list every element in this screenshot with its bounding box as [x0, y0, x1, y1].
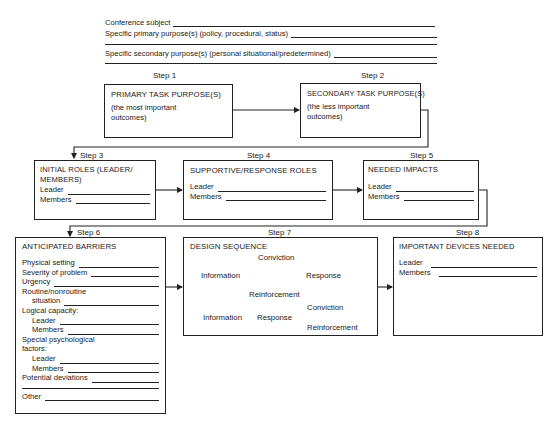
- special-psych-label: Special psychological: [22, 335, 95, 345]
- step-1-primary-task-purpose-box: PRIMARY TASK PURPOSE(S) (the most import…: [104, 84, 233, 138]
- step-1-note: (the most important outcomes): [111, 103, 206, 123]
- step-8-leader-blank[interactable]: [431, 261, 537, 268]
- step-5-label: Step 5: [410, 151, 433, 160]
- branch-information: Information: [203, 313, 242, 322]
- step-3-members-blank[interactable]: [76, 197, 150, 204]
- step-4-supportive-response-roles-box: SUPPORTIVE/RESPONSE ROLES Leader Members: [183, 160, 333, 220]
- step-8-title: IMPORTANT DEVICES NEEDED: [399, 242, 537, 251]
- step-5-members-label: Members: [368, 192, 400, 202]
- psych-leader-field: Leader: [22, 354, 159, 364]
- other-label: Other: [22, 392, 41, 402]
- psych-members-field: Members: [22, 364, 159, 374]
- step-4-members-label: Members: [190, 192, 222, 202]
- psych-members-label: Members: [32, 364, 64, 374]
- logical-capacity-label-row: Logical capacity:: [22, 306, 159, 316]
- step-8-leader-label: Leader: [399, 258, 423, 268]
- cycle-conviction: Conviction: [258, 253, 294, 262]
- potential-deviations-blank[interactable]: [92, 376, 159, 383]
- step-3-label: Step 3: [80, 151, 103, 160]
- logical-members-label: Members: [32, 325, 64, 335]
- step-5-title: NEEDED IMPACTS: [368, 165, 474, 174]
- severity-field: Severity of problem: [22, 268, 159, 278]
- psych-leader-label: Leader: [32, 354, 56, 364]
- logical-leader-label: Leader: [32, 316, 56, 326]
- step-4-title: SUPPORTIVE/RESPONSE ROLES: [190, 166, 326, 175]
- logical-members-blank[interactable]: [68, 328, 159, 335]
- step-4-members-field: Members: [190, 192, 326, 202]
- step-5-members-blank[interactable]: [404, 194, 474, 201]
- situation-field: situation: [22, 296, 159, 306]
- potential-deviations-continuation-line[interactable]: [22, 383, 159, 389]
- severity-blank[interactable]: [91, 270, 159, 277]
- step-2-label: Step 2: [361, 71, 384, 80]
- logical-capacity-label: Logical capacity:: [22, 306, 78, 316]
- severity-label: Severity of problem: [22, 268, 87, 278]
- step-6-title: ANTICIPATED BARRIERS: [22, 242, 159, 251]
- physical-setting-label: Physical setting: [22, 258, 75, 268]
- step-3-initial-roles-box: INITIAL ROLES (LEADER/ MEMBERS) Leader M…: [34, 160, 156, 220]
- step-3-leader-label: Leader: [40, 185, 64, 195]
- cycle-reinforcement: Reinforcement: [249, 290, 300, 299]
- urgency-label: Urgency: [22, 277, 50, 287]
- factors-label-row: factors:: [22, 344, 159, 354]
- step-3-leader-blank[interactable]: [68, 188, 150, 195]
- step-4-leader-label: Leader: [190, 182, 214, 192]
- other-field: Other: [22, 392, 159, 402]
- step-6-label: Step 6: [77, 228, 100, 237]
- step-8-label: Step 8: [456, 228, 479, 237]
- situation-label: situation: [32, 296, 60, 306]
- other-blank[interactable]: [45, 394, 159, 401]
- step-3-members-label: Members: [40, 195, 72, 205]
- step-7-title: DESIGN SEQUENCE: [190, 242, 267, 251]
- step-3-title: INITIAL ROLES (LEADER/ MEMBERS): [40, 165, 148, 185]
- step-5-leader-field: Leader: [368, 182, 474, 192]
- step-3-leader-field: Leader: [40, 185, 150, 195]
- step-7-label: Step 7: [268, 228, 291, 237]
- logical-leader-field: Leader: [22, 316, 159, 326]
- branch-conviction: Conviction: [307, 303, 343, 312]
- step-5-leader-blank[interactable]: [396, 185, 474, 192]
- step-5-leader-label: Leader: [368, 182, 392, 192]
- urgency-field: Urgency: [22, 277, 159, 287]
- step-1-label: Step 1: [153, 71, 176, 80]
- step-8-members-blank[interactable]: [439, 270, 537, 277]
- step-4-members-blank[interactable]: [226, 194, 326, 201]
- logical-members-field: Members: [22, 325, 159, 335]
- step-5-needed-impacts-box: NEEDED IMPACTS Leader Members: [363, 160, 479, 220]
- step-2-note: (the less important outcomes): [307, 102, 387, 122]
- logical-leader-blank[interactable]: [60, 318, 159, 325]
- situation-blank[interactable]: [64, 299, 159, 306]
- psych-leader-blank[interactable]: [60, 357, 159, 364]
- urgency-blank[interactable]: [54, 280, 159, 287]
- step-3-members-field: Members: [40, 195, 150, 205]
- physical-setting-blank[interactable]: [79, 261, 159, 268]
- step-8-members-field: Members: [399, 268, 537, 278]
- step-8-members-label: Members: [399, 268, 431, 278]
- step-6-anticipated-barriers-box: ANTICIPATED BARRIERS Physical setting Se…: [15, 237, 166, 414]
- step-2-title: SECONDARY TASK PURPOSE(S): [307, 89, 414, 98]
- potential-deviations-field: Potential deviations: [22, 373, 159, 383]
- physical-setting-field: Physical setting: [22, 258, 159, 268]
- potential-deviations-label: Potential deviations: [22, 373, 88, 383]
- step-1-title: PRIMARY TASK PURPOSE(S): [111, 90, 226, 99]
- step-4-leader-blank[interactable]: [218, 185, 326, 192]
- step-4-label: Step 4: [247, 151, 270, 160]
- step-8-leader-field: Leader: [399, 258, 537, 268]
- cycle-response: Response: [306, 271, 341, 280]
- psych-members-blank[interactable]: [68, 366, 159, 373]
- step-2-secondary-task-purpose-box: SECONDARY TASK PURPOSE(S) (the less impo…: [300, 83, 421, 138]
- branch-reinforcement: Reinforcement: [307, 323, 358, 332]
- special-psych-label-row: Special psychological: [22, 335, 159, 345]
- routine-label-row: Routine/nonroutine: [22, 287, 159, 297]
- factors-label: factors:: [22, 344, 47, 354]
- branch-response: Response: [257, 313, 292, 322]
- step-8-important-devices-box: IMPORTANT DEVICES NEEDED Leader Members: [393, 237, 543, 336]
- step-4-leader-field: Leader: [190, 182, 326, 192]
- step-5-members-field: Members: [368, 192, 474, 202]
- cycle-information: Information: [201, 271, 240, 280]
- routine-label: Routine/nonroutine: [22, 287, 86, 297]
